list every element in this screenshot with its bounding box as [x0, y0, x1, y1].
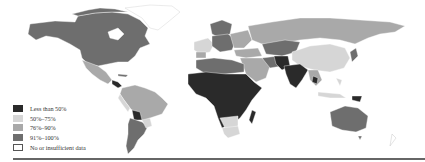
region-japan	[350, 48, 358, 62]
region-europe-west	[194, 38, 214, 54]
region-india	[284, 64, 308, 88]
region-south-africa	[222, 126, 240, 138]
legend-item-less-than-50: Less than 50%	[13, 104, 86, 114]
legend-item-91-100: 91%–100%	[13, 133, 86, 143]
legend-label: 50%–75%	[30, 115, 56, 122]
bottom-rule	[13, 158, 425, 160]
region-north-africa	[196, 58, 244, 74]
legend-label: No or insufficient data	[30, 144, 86, 151]
legend-swatch	[13, 134, 23, 141]
region-south-america-north	[120, 85, 168, 122]
region-madagascar	[249, 110, 256, 124]
region-russia	[248, 18, 405, 44]
region-central-america	[112, 80, 122, 88]
region-iberia	[196, 52, 206, 58]
region-north-america	[28, 12, 150, 66]
legend-item-50-75: 50%–75%	[13, 114, 86, 124]
region-png	[352, 96, 362, 102]
legend-item-no-data: No or insufficient data	[13, 142, 86, 152]
map-legend: Less than 50% 50%–75% 76%–90% 91%–100% N…	[13, 104, 86, 152]
legend-swatch	[13, 144, 23, 151]
region-balkans-turkey	[234, 48, 262, 58]
legend-item-76-90: 76%–90%	[13, 123, 86, 133]
region-europe-east	[230, 30, 252, 48]
region-australia	[330, 106, 368, 132]
region-indonesia	[318, 92, 346, 98]
legend-label: 76%–90%	[30, 124, 56, 131]
legend-swatch	[13, 105, 23, 112]
legend-swatch	[13, 124, 23, 131]
legend-label: 91%–100%	[30, 134, 59, 141]
legend-swatch	[13, 115, 23, 122]
legend-label: Less than 50%	[30, 105, 66, 112]
